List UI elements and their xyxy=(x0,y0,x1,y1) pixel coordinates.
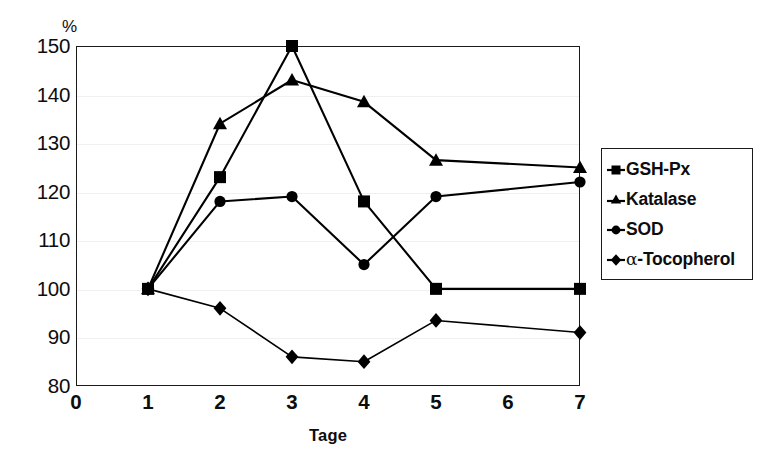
gridline xyxy=(77,144,579,145)
x-tick-label: 7 xyxy=(560,392,600,413)
gridline xyxy=(77,241,579,242)
x-tick-label: 1 xyxy=(128,392,168,413)
x-tick-label: 5 xyxy=(416,392,456,413)
legend-label-tocopherol-text: -Tocopherol xyxy=(637,249,735,269)
y-tick-label: 150 xyxy=(12,36,70,57)
square-marker-icon xyxy=(607,161,625,179)
legend-label-sod: SOD xyxy=(626,221,663,239)
x-tick-label: 3 xyxy=(272,392,312,413)
y-tick-label: 90 xyxy=(12,327,70,348)
y-tick-label: 120 xyxy=(12,182,70,203)
x-tick-label: 2 xyxy=(200,392,240,413)
x-tick-label: 0 xyxy=(56,392,96,413)
legend-label-alpha-tocopherol: α-Tocopherol xyxy=(626,251,735,269)
gridline xyxy=(77,193,579,194)
chart-figure: % 8090100110120130140150 01234567 Tage G… xyxy=(0,0,767,470)
legend-item-katalase: Katalase xyxy=(602,185,752,215)
y-tick-label: 140 xyxy=(12,85,70,106)
plot-area xyxy=(76,46,580,386)
y-tick-label: 100 xyxy=(12,279,70,300)
triangle-marker-icon xyxy=(607,191,625,209)
y-tick-label: 130 xyxy=(12,133,70,154)
legend-label-sod-text: SOD xyxy=(626,219,663,239)
x-axis-title: Tage xyxy=(76,426,580,445)
y-tick-label: 110 xyxy=(12,230,70,251)
gridline xyxy=(77,338,579,339)
x-tick-label: 6 xyxy=(488,392,528,413)
gridline xyxy=(77,96,579,97)
circle-marker-icon xyxy=(607,221,625,239)
alpha-symbol-tocopherol: α xyxy=(626,249,637,269)
diamond-marker-icon xyxy=(607,251,625,269)
legend-item-gsh-px: GSH-Px xyxy=(602,155,752,185)
legend-label-gsh-px: GSH-Px xyxy=(626,161,690,179)
chart-legend: GSH-Px Katalase SOD α-Tocopherol xyxy=(601,148,753,280)
x-tick-label: 4 xyxy=(344,392,384,413)
legend-label-katalase: Katalase xyxy=(626,191,696,209)
legend-item-alpha-tocopherol: α-Tocopherol xyxy=(602,245,752,275)
gridline xyxy=(77,290,579,291)
legend-item-sod: SOD xyxy=(602,215,752,245)
x-axis: 01234567 xyxy=(0,392,767,422)
